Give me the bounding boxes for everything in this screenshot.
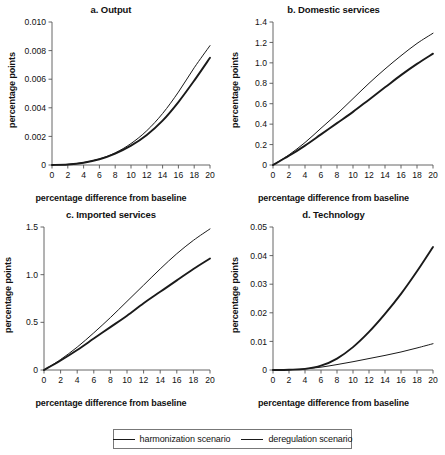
svg-text:6: 6	[318, 375, 323, 385]
svg-text:0: 0	[33, 365, 38, 375]
legend-line-swatch-deregulation	[241, 439, 263, 440]
svg-text:0: 0	[270, 375, 275, 385]
panel-c-imported-services: c. Imported services percentage points 0…	[0, 205, 222, 410]
svg-text:4: 4	[81, 170, 86, 180]
svg-text:0.4: 0.4	[255, 119, 267, 129]
svg-text:16: 16	[396, 170, 406, 180]
figure-multi-panel-line-charts: a. Output percentage points 00.0020.0040…	[0, 0, 445, 455]
svg-text:20: 20	[428, 375, 438, 385]
x-axis-label: percentage difference from baseline	[0, 193, 222, 203]
svg-text:8: 8	[334, 375, 339, 385]
svg-text:6: 6	[91, 375, 96, 385]
svg-text:18: 18	[412, 170, 422, 180]
legend-line-swatch-harmonization	[113, 439, 135, 440]
svg-text:1.0: 1.0	[26, 270, 38, 280]
svg-text:8: 8	[334, 170, 339, 180]
svg-text:6: 6	[97, 170, 102, 180]
svg-text:2: 2	[286, 170, 291, 180]
svg-text:6: 6	[318, 170, 323, 180]
legend: harmonization scenario deregulation scen…	[113, 429, 352, 449]
svg-text:12: 12	[364, 170, 374, 180]
svg-text:14: 14	[380, 170, 390, 180]
svg-text:0.004: 0.004	[24, 103, 46, 113]
svg-text:10: 10	[348, 375, 358, 385]
svg-text:0.01: 0.01	[250, 337, 267, 347]
legend-label: harmonization scenario	[140, 434, 231, 444]
svg-text:18: 18	[189, 170, 199, 180]
panel-grid: a. Output percentage points 00.0020.0040…	[0, 0, 445, 410]
svg-text:10: 10	[348, 170, 358, 180]
svg-text:2: 2	[58, 375, 63, 385]
svg-text:0: 0	[270, 170, 275, 180]
x-axis-label: percentage difference from baseline	[223, 193, 445, 203]
plot-area: 00.010.020.030.040.0502468101214161820	[223, 205, 445, 410]
svg-text:14: 14	[380, 375, 390, 385]
svg-text:4: 4	[302, 170, 307, 180]
svg-text:8: 8	[113, 170, 118, 180]
svg-text:2: 2	[286, 375, 291, 385]
panel-b-domestic-services: b. Domestic services percentage points 0…	[223, 0, 445, 205]
plot-area: 00.20.40.60.81.01.21.402468101214161820	[223, 0, 445, 205]
panel-a-output: a. Output percentage points 00.0020.0040…	[0, 0, 222, 205]
svg-text:0.8: 0.8	[255, 78, 267, 88]
svg-text:14: 14	[155, 375, 165, 385]
svg-text:10: 10	[122, 375, 132, 385]
svg-text:1.5: 1.5	[26, 222, 38, 232]
legend-item-deregulation: deregulation scenario	[241, 434, 352, 444]
x-axis-label: percentage difference from baseline	[223, 398, 445, 408]
legend-item-harmonization: harmonization scenario	[113, 434, 231, 444]
svg-text:2: 2	[65, 170, 70, 180]
svg-text:4: 4	[75, 375, 80, 385]
svg-text:18: 18	[189, 375, 199, 385]
svg-text:1.2: 1.2	[255, 38, 267, 48]
svg-text:18: 18	[412, 375, 422, 385]
svg-text:0.010: 0.010	[24, 17, 46, 27]
plot-area: 00.51.01.502468101214161820	[0, 205, 222, 410]
svg-text:0.002: 0.002	[24, 132, 46, 142]
svg-text:12: 12	[139, 375, 149, 385]
svg-text:0: 0	[50, 170, 55, 180]
svg-text:20: 20	[205, 375, 215, 385]
svg-text:0: 0	[41, 160, 46, 170]
svg-text:14: 14	[158, 170, 168, 180]
svg-text:4: 4	[302, 375, 307, 385]
x-axis-label: percentage difference from baseline	[0, 398, 222, 408]
plot-area: 00.0020.0040.0060.0080.01002468101214161…	[0, 0, 222, 205]
svg-text:1.4: 1.4	[255, 17, 267, 27]
svg-text:0.05: 0.05	[250, 222, 267, 232]
svg-text:0.006: 0.006	[24, 74, 46, 84]
svg-text:20: 20	[428, 170, 438, 180]
svg-text:0: 0	[262, 365, 267, 375]
svg-text:0.02: 0.02	[250, 308, 267, 318]
svg-text:1.0: 1.0	[255, 58, 267, 68]
panel-d-technology: d. Technology percentage points 00.010.0…	[223, 205, 445, 410]
svg-text:0: 0	[262, 160, 267, 170]
svg-text:0.04: 0.04	[250, 251, 267, 261]
legend-label: deregulation scenario	[268, 434, 352, 444]
svg-text:12: 12	[364, 375, 374, 385]
svg-text:0: 0	[42, 375, 47, 385]
svg-text:16: 16	[174, 170, 184, 180]
svg-text:8: 8	[108, 375, 113, 385]
svg-text:12: 12	[142, 170, 152, 180]
svg-text:16: 16	[172, 375, 182, 385]
svg-text:16: 16	[396, 375, 406, 385]
svg-text:0.5: 0.5	[26, 317, 38, 327]
svg-text:20: 20	[205, 170, 215, 180]
svg-text:10: 10	[126, 170, 136, 180]
svg-text:0.03: 0.03	[250, 279, 267, 289]
svg-text:0.2: 0.2	[255, 140, 267, 150]
svg-text:0.6: 0.6	[255, 99, 267, 109]
svg-text:0.008: 0.008	[24, 46, 46, 56]
